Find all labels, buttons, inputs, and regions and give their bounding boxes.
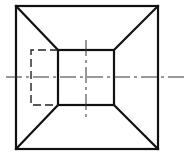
technical-drawing [0, 0, 184, 155]
edge-top-left [16, 6, 58, 50]
edge-bottom-left [16, 105, 58, 149]
edge-top-right [114, 6, 158, 50]
edge-bottom-right [114, 105, 158, 149]
